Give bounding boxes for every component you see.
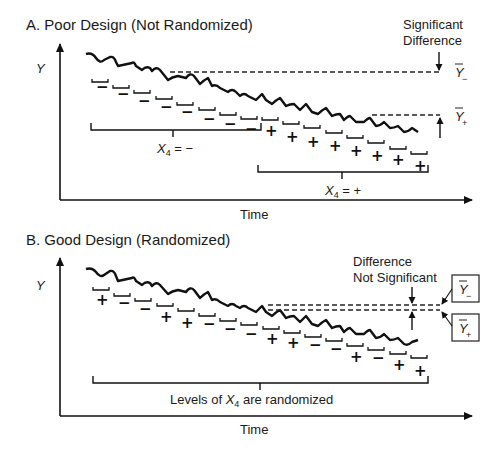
svg-text:+: + [393, 356, 406, 374]
svg-text:+: + [466, 330, 471, 340]
svg-text:+: + [392, 151, 405, 169]
svg-text:+: + [265, 122, 278, 140]
svg-text:+: + [414, 362, 427, 380]
panel-b-plus-pointer-icon [442, 312, 452, 326]
panel-a-ybar-minus-label: Y − [455, 64, 467, 84]
svg-text:+: + [96, 291, 109, 309]
panel-b-title: B. Good Design (Randomized) [26, 231, 230, 248]
panel-b: B. Good Design (Randomized) Y Time Diffe… [26, 231, 479, 437]
panel-a-plus-group-label: X4 = + [324, 183, 361, 200]
svg-text:+: + [307, 133, 320, 151]
svg-text:−: − [118, 294, 131, 312]
panel-a-minus-group-label: X4 = − [156, 141, 193, 158]
svg-text:−: − [309, 336, 322, 354]
svg-text:+: + [462, 118, 467, 128]
panel-a-title: A. Poor Design (Not Randomized) [26, 16, 253, 33]
svg-text:−: − [466, 291, 471, 301]
svg-text:−: − [245, 120, 258, 138]
svg-text:−: − [139, 300, 152, 318]
svg-text:+: + [350, 142, 363, 160]
svg-text:+: + [371, 147, 384, 165]
panel-b-annotation-line2: Not Significant [353, 270, 437, 285]
svg-text:−: − [181, 103, 194, 121]
svg-text:−: − [330, 340, 343, 358]
svg-text:+: + [350, 348, 363, 366]
panel-b-annotation-line1: Difference [353, 254, 412, 269]
panel-b-x-label: Time [240, 422, 268, 437]
panel-b-group-bracket [93, 376, 428, 390]
svg-text:−: − [372, 349, 385, 367]
svg-text:−: − [160, 98, 173, 116]
panel-a-ybar-plus-label: Y + [455, 108, 467, 128]
svg-text:+: + [329, 137, 342, 155]
svg-text:−: − [203, 110, 216, 128]
svg-text:−: − [224, 320, 237, 338]
svg-text:−: − [203, 315, 216, 333]
panel-a-minus-observations: − − − − − − − − [92, 78, 258, 138]
panel-a-plus-observations: + + + + + + + + [262, 117, 427, 175]
panel-a-annotation-line2: Difference [403, 33, 462, 48]
panel-a-annotation-line1: Significant [403, 17, 463, 32]
svg-text:−: − [117, 85, 130, 103]
panel-a-y-label: Y [36, 61, 46, 76]
svg-text:+: + [181, 314, 194, 332]
svg-text:−: − [96, 78, 109, 96]
svg-text:−: − [245, 325, 258, 343]
svg-text:+: + [160, 308, 173, 326]
panel-a: A. Poor Design (Not Randomized) Y Time S… [26, 16, 472, 222]
svg-text:−: − [462, 74, 467, 84]
panel-b-minus-pointer-icon [442, 289, 452, 304]
panel-b-group-label: Levels of X4 are randomized [170, 392, 333, 409]
svg-text:+: + [286, 128, 299, 146]
panel-b-observations: + − − + + − − − + + − − + − + + [93, 287, 427, 380]
svg-text:+: + [266, 330, 279, 348]
panel-a-x-label: Time [240, 207, 268, 222]
svg-text:+: + [287, 334, 300, 352]
svg-text:−: − [138, 92, 151, 110]
panel-b-y-label: Y [36, 278, 46, 293]
